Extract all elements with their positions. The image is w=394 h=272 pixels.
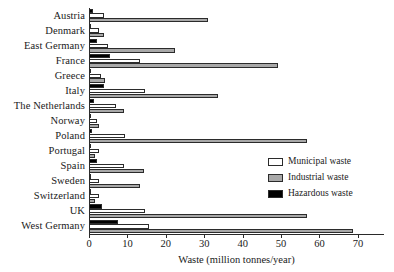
- bar-industrial: [89, 109, 124, 113]
- bar-industrial: [89, 184, 140, 188]
- legend-item-hazardous: Hazardous waste: [268, 187, 353, 201]
- x-tick-label: 60: [314, 239, 325, 250]
- category-label: East Germany: [24, 40, 85, 51]
- category-label: Portugal: [49, 146, 85, 157]
- chart-category-row: Italy: [89, 83, 384, 98]
- bar-industrial: [89, 48, 175, 52]
- category-label: Austria: [53, 10, 85, 21]
- bar-municipal: [89, 13, 104, 17]
- legend-label: Industrial waste: [288, 173, 348, 183]
- category-label: The Netherlands: [14, 101, 85, 112]
- bar-industrial: [89, 94, 218, 98]
- chart-category-row: France: [89, 53, 384, 68]
- x-tick-label: 0: [86, 239, 91, 250]
- chart-category-row: Poland: [89, 129, 384, 144]
- chart-category-row: West Germany: [89, 219, 384, 234]
- bar-industrial: [89, 154, 95, 158]
- x-tick-label: 20: [161, 239, 172, 250]
- chart-category-row: Austria: [89, 8, 384, 23]
- category-label: Greece: [55, 71, 85, 82]
- category-label: Sweden: [51, 176, 85, 187]
- bar-industrial: [89, 214, 307, 218]
- x-tick-label: 40: [237, 239, 248, 250]
- category-label: Poland: [55, 131, 85, 142]
- legend-item-municipal: Municipal waste: [268, 155, 353, 169]
- bar-hazardous: [89, 174, 91, 178]
- legend-item-industrial: Industrial waste: [268, 171, 353, 185]
- bar-municipal: [89, 104, 116, 108]
- x-tick-label: 70: [353, 239, 364, 250]
- x-tick-label: 50: [276, 239, 287, 250]
- legend-swatch-municipal: [268, 158, 283, 166]
- bar-municipal: [89, 74, 101, 78]
- bar-hazardous: [89, 114, 91, 118]
- bar-municipal: [89, 149, 99, 153]
- legend-swatch-industrial: [268, 174, 283, 182]
- category-label: Spain: [61, 161, 85, 172]
- bar-industrial: [89, 199, 95, 203]
- bar-hazardous: [89, 84, 104, 88]
- legend-swatch-hazardous: [268, 190, 283, 198]
- legend-label: Hazardous waste: [288, 189, 353, 199]
- category-label: Italy: [65, 86, 85, 97]
- bar-municipal: [89, 59, 140, 63]
- category-label: Switzerland: [34, 191, 85, 202]
- chart-category-row: East Germany: [89, 38, 384, 53]
- bar-hazardous: [89, 129, 92, 133]
- bar-municipal: [89, 134, 125, 138]
- chart-category-row: The Netherlands: [89, 98, 384, 113]
- bar-municipal: [89, 119, 97, 123]
- bar-hazardous: [89, 189, 91, 193]
- chart-category-row: Norway: [89, 113, 384, 128]
- bar-hazardous: [89, 39, 97, 43]
- x-axis-line: [89, 234, 384, 235]
- bar-hazardous: [89, 204, 102, 208]
- bar-municipal: [89, 209, 145, 213]
- chart-category-row: Denmark: [89, 23, 384, 38]
- bar-municipal: [89, 28, 99, 32]
- bar-industrial: [89, 63, 278, 67]
- category-label: West Germany: [21, 221, 85, 232]
- bar-industrial: [89, 229, 353, 233]
- bar-municipal: [89, 44, 108, 48]
- bar-hazardous: [89, 220, 118, 224]
- bar-hazardous: [89, 144, 91, 148]
- bar-hazardous: [89, 99, 94, 103]
- waste-by-country-bar-chart: AustriaDenmarkEast GermanyFranceGreeceIt…: [0, 0, 394, 272]
- bar-municipal: [89, 224, 149, 228]
- chart-category-row: Greece: [89, 68, 384, 83]
- bar-municipal: [89, 194, 99, 198]
- bar-hazardous: [89, 54, 110, 58]
- category-label: Denmark: [45, 25, 85, 36]
- bar-industrial: [89, 78, 105, 82]
- bar-hazardous: [89, 159, 97, 163]
- bar-municipal: [89, 164, 124, 168]
- bar-hazardous: [89, 24, 91, 28]
- category-label: UK: [70, 206, 85, 217]
- bar-industrial: [89, 33, 104, 37]
- bar-industrial: [89, 139, 307, 143]
- bar-industrial: [89, 169, 144, 173]
- category-label: Norway: [51, 116, 85, 127]
- bar-industrial: [89, 18, 208, 22]
- legend-label: Municipal waste: [288, 157, 351, 167]
- bar-industrial: [89, 124, 99, 128]
- chart-category-row: UK: [89, 204, 384, 219]
- x-tick-label: 10: [122, 239, 133, 250]
- chart-legend: Municipal wasteIndustrial wasteHazardous…: [268, 155, 353, 203]
- bar-hazardous: [89, 69, 91, 73]
- bar-hazardous: [89, 9, 93, 13]
- category-label: France: [56, 55, 85, 66]
- x-axis-title: Waste (million tonnes/year): [89, 254, 384, 265]
- x-tick-label: 30: [199, 239, 210, 250]
- bar-municipal: [89, 179, 99, 183]
- bar-municipal: [89, 89, 145, 93]
